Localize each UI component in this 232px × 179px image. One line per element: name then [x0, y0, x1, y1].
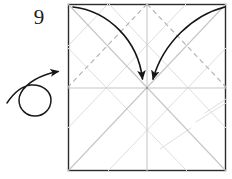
fold-arrow-left-icon [73, 7, 143, 79]
turn-over-arrow-icon [7, 72, 58, 117]
fold-arrow-right-icon [153, 7, 225, 79]
origami-step-diagram: 9 [0, 0, 232, 179]
arrow-layer [0, 0, 232, 179]
watermark-text [188, 170, 230, 178]
